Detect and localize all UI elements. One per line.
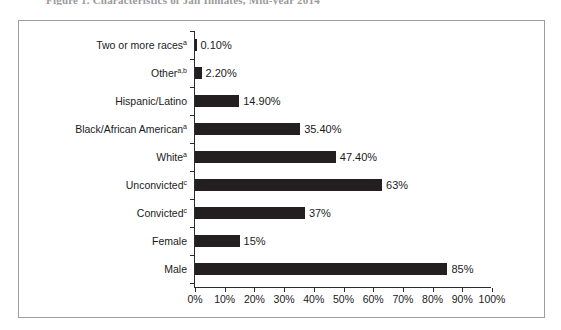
x-axis-tick [403,288,404,292]
category-label: Unconvictedc [19,171,187,199]
bar-value-label: 15% [240,227,266,255]
x-axis-tick [492,288,493,292]
bar-value-label: 47.40% [336,143,377,171]
bar-row: Hispanic/Latino14.90% [19,87,546,115]
category-label: Convictedc [19,199,187,227]
bar-row: Female15% [19,227,546,255]
chart-frame: Two or more racesa0.10%Othera,b2.20%Hisp… [18,20,545,318]
category-label: Female [19,227,187,255]
bar-value-label: 85% [447,255,473,283]
x-axis-tick [314,288,315,292]
y-axis-tick [190,171,195,172]
footnote-marker: c [184,207,188,214]
bar-row: Convictedc37% [19,199,546,227]
figure-title: Figure 1. Characteristics of Jail Inmate… [46,0,346,5]
y-axis-tick [190,199,195,200]
bar-value-label: 14.90% [239,87,280,115]
bar [195,263,447,275]
category-label: Two or more racesa [19,31,187,59]
bar-row: Black/African Americana35.40% [19,115,546,143]
bar [195,235,240,247]
y-axis-tick [190,143,195,144]
footnote-marker: a,b [177,67,187,74]
bar-row: Othera,b2.20% [19,59,546,87]
bar [195,179,382,191]
x-axis-tick [284,288,285,292]
bar-row: Whitea47.40% [19,143,546,171]
footnote-marker: a [183,151,187,158]
y-axis-tick [190,227,195,228]
y-axis-tick [190,115,195,116]
bar-row: Two or more racesa0.10% [19,31,546,59]
footnote-marker: a [183,39,187,46]
bar-row: Unconvictedc63% [19,171,546,199]
category-label: Black/African Americana [19,115,187,143]
y-axis-tick [190,283,195,284]
bar-value-label: 37% [305,199,331,227]
bar-value-label: 35.40% [300,115,341,143]
x-axis-tick [225,288,226,292]
category-label: Hispanic/Latino [19,87,187,115]
bar [195,151,336,163]
footnote-marker: a [183,123,187,130]
bar [195,123,300,135]
x-axis-tick [462,288,463,292]
bar-value-label: 2.20% [202,59,237,87]
y-axis-tick [190,31,195,32]
x-axis-tick [254,288,255,292]
bar [195,95,239,107]
y-axis-tick [190,87,195,88]
category-label: Male [19,255,187,283]
category-axis-line [194,287,491,288]
category-label: Othera,b [19,59,187,87]
y-axis-tick [190,255,195,256]
x-axis-tick [373,288,374,292]
plot-area: Two or more racesa0.10%Othera,b2.20%Hisp… [19,21,546,319]
x-axis-tick [433,288,434,292]
footnote-marker: c [184,179,188,186]
y-axis-tick [190,59,195,60]
x-axis-tick [344,288,345,292]
x-axis-label: 100% [475,293,509,305]
bar-row: Male85% [19,255,546,283]
bar-value-label: 0.10% [197,31,232,59]
category-label: Whitea [19,143,187,171]
x-axis-tick [195,288,196,292]
bar-value-label: 63% [382,171,408,199]
bar [195,207,305,219]
